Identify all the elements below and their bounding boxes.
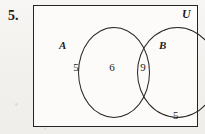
- problem-number-label: 5.: [8, 9, 19, 23]
- region-count-a-only: 5: [69, 62, 83, 73]
- set-b-label: B: [159, 40, 166, 51]
- region-count-b-only: 9: [136, 62, 150, 73]
- set-a-label: A: [59, 40, 66, 51]
- region-count-outside: 5: [173, 110, 179, 121]
- universal-set-label: U: [182, 8, 191, 20]
- venn-diagram-figure: 5. U A B 5 6 9 5: [0, 0, 205, 134]
- region-count-intersection: 6: [105, 62, 119, 73]
